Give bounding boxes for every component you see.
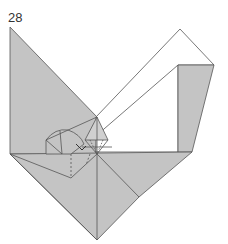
bottom-base — [10, 152, 192, 240]
origami-diagram — [0, 0, 228, 244]
right-flap — [178, 65, 214, 152]
